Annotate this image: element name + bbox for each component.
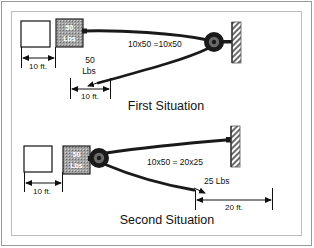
empty-box-icon	[21, 21, 50, 47]
dimension-label-right-s1: 10 ft.	[81, 92, 99, 101]
weight-block-label-line1-s1: 50	[66, 24, 74, 31]
dimension-label-right-s2: 20 ft.	[225, 203, 243, 212]
dimension-label-left-s2: 10 ft.	[33, 187, 51, 196]
rope-anchor-block-s1	[82, 29, 87, 34]
applied-force-label-s2: 25 Lbs	[204, 176, 230, 186]
empty-box-icon-s2	[24, 146, 52, 172]
applied-force-label-line1-s1: 50	[85, 55, 95, 65]
hatched-wall-icon-s2	[231, 126, 240, 167]
situation-one-title: First Situation	[128, 99, 204, 113]
applied-force-label-line2-s1: Lbs	[82, 66, 96, 76]
situation-two-title: Second Situation	[120, 213, 215, 227]
dimension-label-left-s1: 10 ft.	[29, 62, 47, 71]
equation-label-s2: 10x50 = 20x25	[147, 157, 203, 167]
rope-anchor-wall-s2	[226, 137, 231, 143]
equation-label-s1: 10x50 =10x50	[128, 39, 182, 49]
weight-block-label-line2-s1: Lbs	[63, 35, 76, 42]
figure-root: 10 ft. 50 Lbs 10x50 =10x50	[0, 0, 314, 248]
hatched-wall-icon-s1	[232, 22, 241, 63]
lever-torque-diagram: 10 ft. 50 Lbs 10x50 =10x50	[0, 0, 314, 248]
weight-block-label-line2-s2: Lbs	[70, 162, 83, 169]
rope-anchor-block-s2	[88, 156, 93, 161]
weight-block-label-line1-s2: 50	[73, 151, 81, 158]
